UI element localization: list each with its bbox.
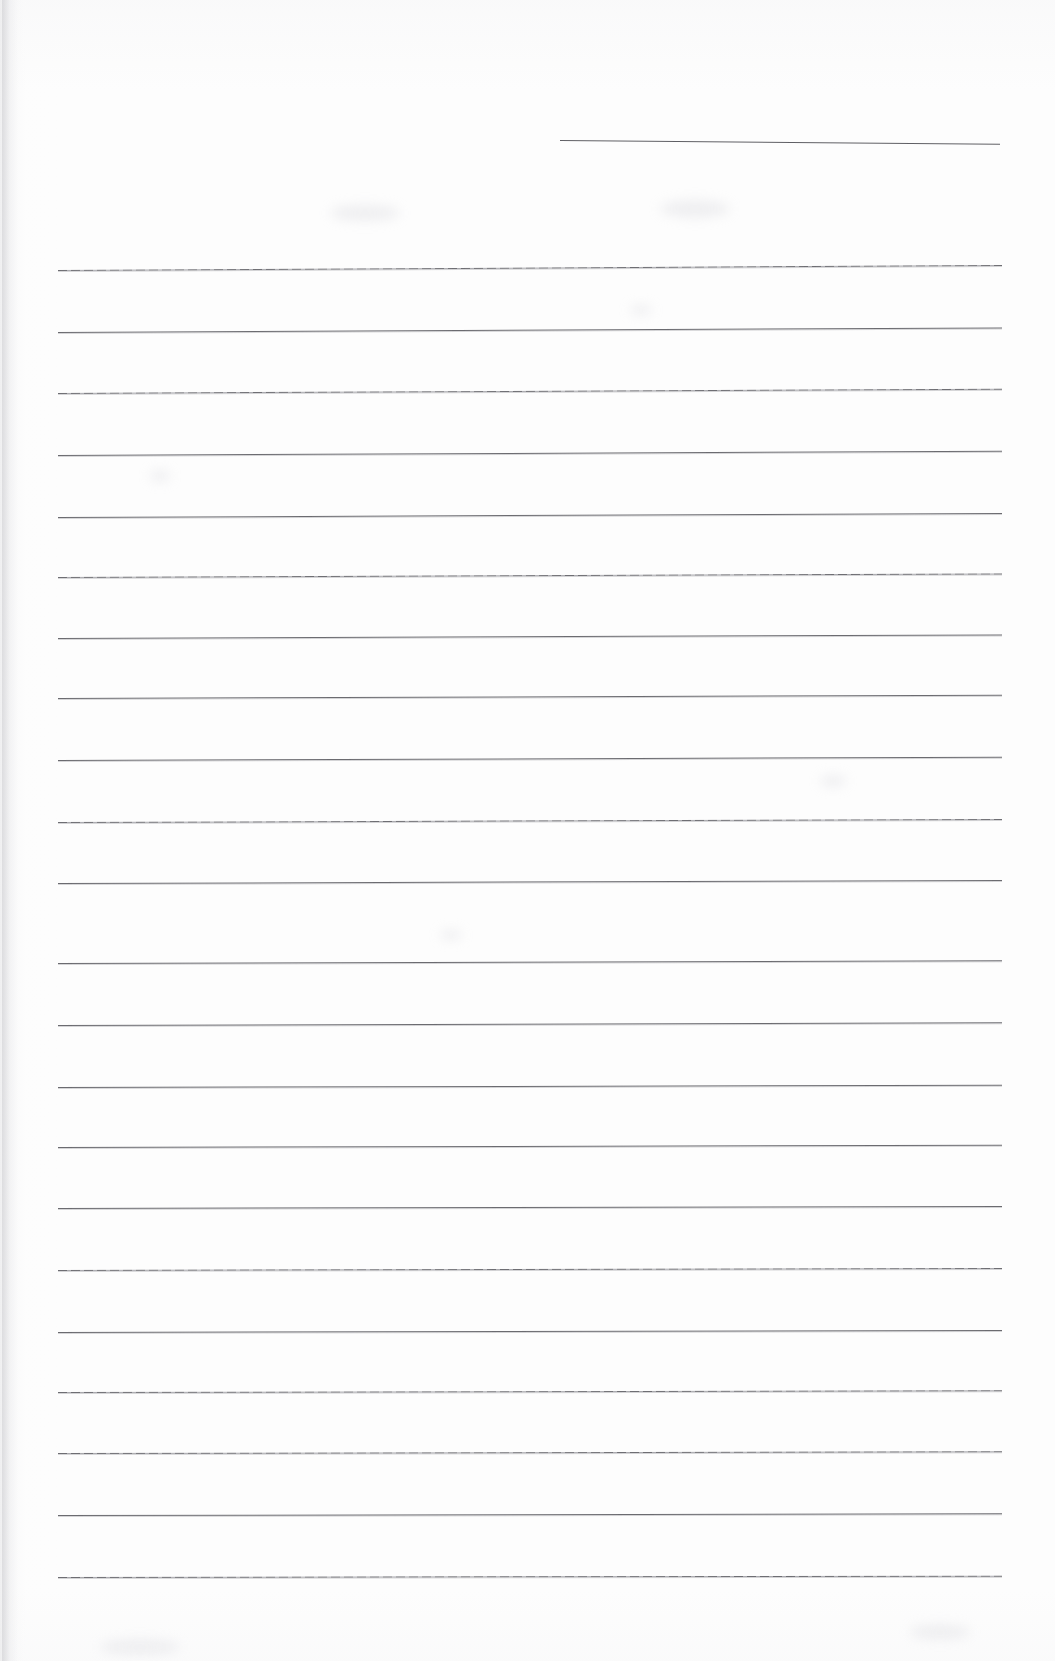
ruled-line-10 <box>58 819 1002 823</box>
ruled-line-3 <box>58 389 1002 394</box>
ruled-line-14 <box>58 1085 1002 1088</box>
scan-smudge-3 <box>150 470 170 482</box>
ruled-line-4 <box>58 451 1002 456</box>
ruled-line-9 <box>58 757 1002 761</box>
scan-smudge-5 <box>820 775 846 787</box>
scan-smudge-2 <box>660 200 730 218</box>
scan-edge-shadow-icon <box>2 0 18 1661</box>
paper-surface <box>0 0 1055 1661</box>
scan-smudge-7 <box>910 1625 970 1639</box>
top-short-rule <box>560 140 1000 145</box>
ruled-line-1 <box>58 265 1002 271</box>
ruled-line-22 <box>58 1576 1002 1578</box>
ruled-line-17 <box>58 1268 1002 1271</box>
ruled-line-5 <box>58 513 1002 518</box>
ruled-line-21 <box>58 1513 1002 1516</box>
ruled-line-2 <box>58 327 1002 333</box>
ruled-line-6 <box>58 573 1002 578</box>
ruled-line-7 <box>58 634 1002 639</box>
ruled-line-12 <box>58 960 1002 964</box>
ruled-line-19 <box>58 1390 1002 1393</box>
scan-smudge-8 <box>100 1640 180 1654</box>
ruled-line-15 <box>58 1145 1002 1148</box>
ruled-line-20 <box>58 1451 1002 1454</box>
scan-smudge-1 <box>330 205 400 221</box>
ruled-line-8 <box>58 695 1002 699</box>
ruled-line-11 <box>58 880 1002 884</box>
scanned-page <box>0 0 1055 1661</box>
ruled-line-16 <box>58 1206 1002 1209</box>
scan-smudge-4 <box>440 930 462 940</box>
ruled-line-13 <box>58 1022 1002 1026</box>
scan-smudge-6 <box>630 305 652 315</box>
ruled-line-18 <box>58 1330 1002 1333</box>
